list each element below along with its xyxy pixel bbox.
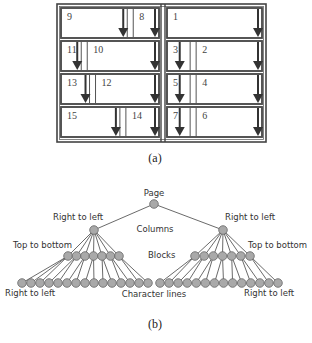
line-node [274, 279, 283, 288]
block-node [89, 252, 98, 261]
layout-diagram: 981110131215141325476 (a) Right to leftT… [0, 0, 312, 343]
block-number: 10 [93, 44, 103, 55]
left-column-row: 1312 [61, 74, 160, 104]
lines-level-label: Character lines [122, 289, 187, 299]
line-node [192, 279, 201, 288]
right-column-row: 76 [167, 107, 263, 137]
block-number: 8 [139, 11, 144, 22]
line-node [63, 279, 72, 288]
figure-a-page-layout: 981110131215141325476 [57, 4, 266, 142]
figure-b-caption: (b) [148, 317, 162, 331]
block-node [246, 252, 255, 261]
line-node [144, 279, 153, 288]
block-number: 1 [173, 11, 178, 22]
block-node [200, 252, 209, 261]
line-node [156, 279, 165, 288]
figure-a-caption: (a) [148, 151, 161, 165]
page-node [150, 200, 159, 209]
row-frame [167, 8, 262, 38]
block-node [98, 252, 107, 261]
line-node [108, 279, 117, 288]
columns-level-label: Columns [137, 224, 175, 234]
block-number: 12 [102, 77, 112, 88]
block-number: 15 [67, 110, 77, 121]
blocks-level-label: Blocks [148, 250, 176, 260]
edge-column-block [195, 230, 223, 256]
block-node [191, 252, 200, 261]
column-order-label: Right to left [225, 212, 276, 222]
line-node [210, 279, 219, 288]
column-node [219, 226, 228, 235]
block-number: 7 [173, 110, 178, 121]
line-node [246, 279, 255, 288]
block-number: 9 [67, 11, 72, 22]
line-node [27, 279, 36, 288]
line-node [126, 279, 135, 288]
right-column-row: 1 [167, 8, 263, 38]
line-node [165, 279, 174, 288]
block-order-label: Top to bottom [12, 240, 72, 250]
block-node [227, 252, 236, 261]
line-node [135, 279, 144, 288]
line-node [81, 279, 90, 288]
line-node [265, 279, 274, 288]
block-number: 4 [202, 77, 207, 88]
line-node [201, 279, 210, 288]
line-node [228, 279, 237, 288]
left-column-row: 98 [61, 8, 160, 38]
page-label: Page [144, 188, 165, 198]
block-node [106, 252, 115, 261]
line-node [219, 279, 228, 288]
figure-b-reading-order-tree: Right to leftTop to bottomRight to leftR… [5, 188, 307, 299]
block-node [115, 252, 124, 261]
row-frame [61, 8, 159, 38]
left-column-row: 1110 [61, 41, 160, 71]
line-node [183, 279, 192, 288]
edge-block-line [250, 256, 278, 283]
block-number: 5 [173, 77, 178, 88]
line-node [256, 279, 265, 288]
left-column-row: 1514 [61, 107, 160, 137]
line-node [174, 279, 183, 288]
line-order-label: Right to left [244, 288, 295, 298]
line-node [45, 279, 54, 288]
right-column-row: 54 [167, 74, 263, 104]
block-number: 14 [132, 110, 142, 121]
line-node [36, 279, 45, 288]
block-node [209, 252, 218, 261]
edge-block-line [40, 256, 68, 283]
line-node [90, 279, 99, 288]
block-order-label: Top to bottom [247, 240, 307, 250]
block-node [64, 252, 73, 261]
block-node [218, 252, 227, 261]
block-node [72, 252, 81, 261]
block-number: 11 [67, 44, 77, 55]
line-node [117, 279, 126, 288]
right-column-row: 32 [167, 41, 263, 71]
line-order-label: Right to left [5, 288, 56, 298]
column-node [90, 226, 99, 235]
block-number: 3 [173, 44, 178, 55]
line-node [18, 279, 27, 288]
block-node [81, 252, 90, 261]
line-node [237, 279, 246, 288]
block-number: 2 [202, 44, 207, 55]
block-number: 13 [67, 77, 77, 88]
line-node [54, 279, 63, 288]
line-node [72, 279, 81, 288]
block-number: 6 [202, 110, 207, 121]
column-order-label: Right to left [53, 212, 104, 222]
block-node [237, 252, 246, 261]
line-node [99, 279, 108, 288]
